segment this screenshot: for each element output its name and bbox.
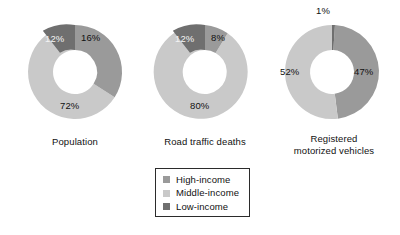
legend-item-middle-income: Middle-income	[163, 187, 249, 201]
caption-population: Population	[15, 136, 135, 148]
population-donut-svg	[15, 12, 135, 132]
legend: High-income Middle-income Low-income	[155, 168, 250, 217]
donut-chart-population: 16% 12% 72%	[15, 12, 135, 132]
deaths-label-high-income: 8%	[211, 32, 225, 43]
legend-label-middle-income: Middle-income	[176, 188, 239, 198]
deaths-donut-svg	[145, 12, 265, 132]
legend-swatch-high-income-icon	[163, 176, 170, 183]
donut-chart-figure: 16% 12% 72% Population 8% 12% 80% Road t…	[0, 0, 400, 235]
caption-registered-motorized-vehicles: Registered motorized vehicles	[270, 133, 398, 156]
legend-swatch-low-income-icon	[163, 203, 170, 210]
caption-road-traffic-deaths: Road traffic deaths	[140, 136, 270, 148]
donut-chart-road-traffic-deaths: 8% 12% 80%	[145, 12, 265, 132]
donut-chart-registered-motorized-vehicles: 47% 52% 1%	[272, 12, 392, 132]
legend-item-high-income: High-income	[163, 173, 249, 187]
population-label-high-income: 16%	[81, 32, 100, 43]
deaths-label-low-income: 12%	[175, 33, 194, 44]
population-label-low-income: 12%	[45, 33, 64, 44]
vehicles-label-high-income: 47%	[354, 66, 373, 77]
legend-item-low-income: Low-income	[163, 200, 249, 214]
vehicles-label-middle-income: 52%	[280, 66, 299, 77]
vehicles-label-low-income: 1%	[316, 5, 330, 16]
legend-label-high-income: High-income	[176, 175, 230, 185]
legend-swatch-middle-income-icon	[163, 190, 170, 197]
deaths-label-middle-income: 80%	[190, 100, 209, 111]
population-label-middle-income: 72%	[60, 100, 79, 111]
legend-label-low-income: Low-income	[176, 202, 228, 212]
